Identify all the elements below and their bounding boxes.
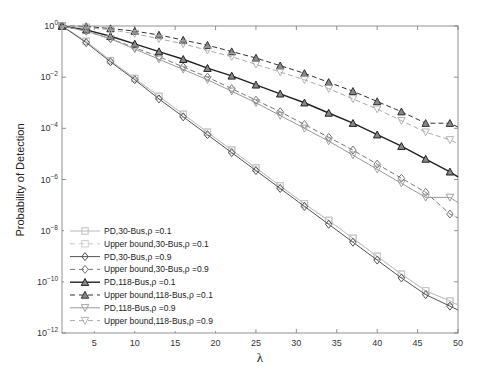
y-tick-label: 10−8 (41, 224, 59, 236)
legend-label: PD,30-Bus,ρ =0.9 (104, 252, 172, 262)
x-tick-label: 50 (453, 338, 463, 348)
y-tick-label: 10−2 (41, 70, 59, 82)
x-tick-label: 25 (251, 338, 261, 348)
legend-label: PD,118-Bus,ρ =0.1 (104, 277, 176, 287)
x-tick-label: 35 (332, 338, 342, 348)
legend-label: Upper bound,30-Bus,ρ =0.1 (104, 239, 209, 249)
legend-entry: PD,30-Bus,ρ =0.1 (70, 226, 172, 236)
y-axis-label: Probability of Detection (14, 123, 26, 236)
y-tick-label: 10−4 (41, 121, 59, 133)
legend-label: Upper bound,118-Bus,ρ =0.9 (104, 316, 213, 326)
x-tick-label: 20 (211, 338, 221, 348)
x-tick-label: 40 (372, 338, 382, 348)
x-tick-label: 5 (92, 338, 97, 348)
legend-label: Upper bound,118-Bus,ρ =0.1 (104, 290, 213, 300)
y-tick-label: 100 (44, 19, 58, 31)
x-tick-label: 30 (291, 338, 301, 348)
legend-label: PD,30-Bus,ρ =0.1 (104, 226, 172, 236)
x-tick-label: 45 (413, 338, 423, 348)
x-tick-label: 15 (170, 338, 180, 348)
y-tick-label: 10−6 (41, 173, 59, 185)
y-tick-label: 10−12 (37, 326, 58, 338)
x-tick-label: 10 (130, 338, 140, 348)
legend-label: Upper bound,30-Bus,ρ =0.9 (104, 264, 209, 274)
y-tick-label: 10−10 (37, 275, 58, 287)
legend-entry: PD,30-Bus,ρ =0.9 (70, 252, 172, 262)
detection-probability-chart: 10010−210−410−610−810−1010−12 5101520253… (0, 0, 483, 379)
x-axis-label: λ (257, 350, 264, 365)
legend-label: PD,118-Bus,ρ =0.9 (104, 303, 176, 313)
legend: PD,30-Bus,ρ =0.1Upper bound,30-Bus,ρ =0.… (64, 225, 236, 331)
